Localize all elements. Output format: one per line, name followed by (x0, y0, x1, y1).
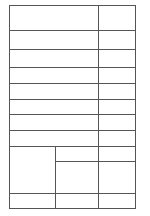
blank-table (9, 5, 136, 209)
row-divider-5 (9, 99, 136, 100)
column-divider-main (98, 5, 99, 209)
row-divider-6 (9, 114, 136, 115)
row-divider-bottom (9, 193, 136, 194)
column-divider-inner (55, 146, 56, 209)
row-divider-7 (9, 130, 136, 131)
row-divider-2 (9, 49, 136, 50)
row-divider-3 (9, 67, 136, 68)
row-divider-inner (55, 161, 136, 162)
row-divider-8 (9, 146, 136, 147)
row-divider-1 (9, 30, 136, 31)
row-divider-4 (9, 83, 136, 84)
